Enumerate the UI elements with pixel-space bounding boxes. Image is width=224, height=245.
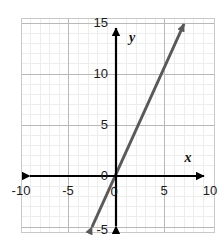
x-tick-label-zero: 0 bbox=[110, 184, 117, 199]
graph-figure: -10 -5 0 5 10 15 10 5 0 -5 x y bbox=[0, 0, 224, 245]
y-tick-label-10: 10 bbox=[94, 66, 108, 81]
coordinate-plane: -10 -5 0 5 10 15 10 5 0 -5 x y bbox=[0, 0, 224, 245]
y-tick-label-5: 5 bbox=[101, 117, 108, 132]
x-tick-label-neg10: -10 bbox=[12, 183, 31, 198]
x-tick-label-5: 5 bbox=[160, 183, 167, 198]
y-tick-label-zero: 0 bbox=[101, 168, 108, 183]
y-tick-label-neg5: -5 bbox=[96, 222, 108, 237]
y-axis-label: y bbox=[127, 30, 136, 45]
x-tick-label-neg5: -5 bbox=[62, 183, 74, 198]
y-tick-label-15: 15 bbox=[94, 15, 108, 30]
x-axis-label: x bbox=[184, 150, 192, 165]
x-tick-label-10: 10 bbox=[203, 183, 217, 198]
